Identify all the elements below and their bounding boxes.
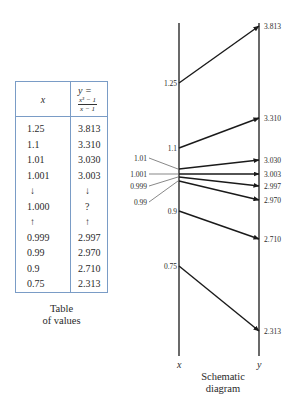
mapping-arrow [179,160,259,169]
x-value-label: 0.9 [168,207,178,216]
mapping-arrow [179,177,259,186]
y-axis-label: y [256,359,262,370]
y-value-label: 3.003 [264,170,281,179]
diagram-caption: Schematic diagram [193,371,253,395]
y-value-label: 3.813 [264,22,281,31]
x-value-label: 1.01 [134,154,147,163]
y-value-label: 2.313 [264,327,281,336]
mapping-arrow [179,266,259,331]
y-value-label: 3.310 [264,114,281,123]
x-axis-label: x [176,359,182,370]
y-value-label: 2.710 [264,235,281,244]
diagram-caption-line2: diagram [193,383,253,395]
mapping-arrow [179,26,259,83]
x-value-label: 1.25 [164,79,177,88]
mapping-arrow [179,211,259,239]
leader-line [149,177,178,186]
x-value-label: 0.99 [134,198,147,207]
y-value-label: 2.997 [264,182,281,191]
diagram-caption-line1: Schematic [193,371,253,383]
mapping-arrow [179,118,259,148]
schematic-diagram: 1.253.8131.13.3101.013.0301.0013.0030.99… [0,0,300,403]
leader-line [149,158,178,169]
y-value-label: 3.030 [264,156,281,165]
x-value-label: 0.75 [164,262,177,271]
mapping-arrow [179,181,259,200]
x-value-label: 0.999 [130,182,147,191]
y-value-label: 2.970 [264,196,281,205]
x-value-label: 1.1 [168,144,178,153]
x-value-label: 1.001 [130,170,147,179]
leader-line [149,181,178,202]
